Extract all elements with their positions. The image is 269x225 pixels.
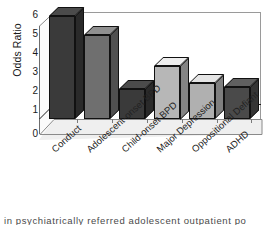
plot-area: [39, 12, 263, 140]
x-tick-2: [112, 119, 113, 123]
figure-caption: in psychiatrically referred adolescent o…: [4, 215, 266, 225]
bar-oppositional-defiant: [189, 83, 215, 119]
bar-front-face: [119, 89, 145, 119]
odds-ratio-bar-chart: Odds Ratio 6 5 4 3 2 1 0: [0, 0, 269, 225]
bar-conduct: [49, 16, 75, 119]
y-axis-title: Odds Ratio: [11, 11, 23, 89]
bar-front-face: [84, 35, 110, 119]
bar-front-face: [49, 16, 75, 119]
x-tick-4: [182, 119, 183, 123]
x-tick-6: [251, 119, 252, 123]
bar-side-face: [110, 26, 119, 119]
bar-major-depression: [154, 66, 180, 120]
bar-front-face: [224, 87, 250, 119]
y-axis-tick-labels: 6 5 4 3 2 1 0: [26, 10, 38, 142]
y-tick-2: 2: [26, 86, 38, 96]
x-tick-5: [217, 119, 218, 123]
y-tick-5: 5: [26, 29, 38, 39]
y-tick-3: 3: [26, 67, 38, 77]
x-tick-1: [77, 119, 78, 123]
x-tick-3: [147, 119, 148, 123]
bar-front-face: [189, 83, 215, 119]
y-tick-1: 1: [26, 105, 38, 115]
bar-side-face: [75, 7, 84, 119]
bar-adolescent-onset-bpd: [84, 35, 110, 119]
bar-adhd: [224, 87, 250, 119]
bar-child-onset-bpd: [119, 89, 145, 119]
y-tick-4: 4: [26, 48, 38, 58]
bar-side-face: [180, 57, 189, 119]
bar-front-face: [154, 66, 180, 120]
y-tick-0: 0: [26, 129, 38, 139]
y-tick-6: 6: [26, 10, 38, 20]
